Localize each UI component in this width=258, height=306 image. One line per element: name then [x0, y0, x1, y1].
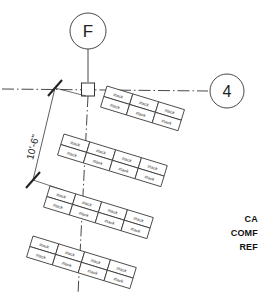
panel-bank-3[interactable]: #tack #tack #tack #tack #tack #tack #tac…: [44, 186, 154, 239]
grid-line-horizontal: [2, 89, 208, 91]
note-block: CA COMF REF: [166, 212, 258, 254]
panel-bank-4[interactable]: #tack #tack #tack #tack #tack #tack #tac…: [27, 236, 137, 289]
grid-bubble-4[interactable]: 4: [210, 74, 244, 108]
grid-bubble-4-label: 4: [223, 83, 232, 100]
dimension-tick-lower: [26, 172, 40, 188]
drawing-canvas: F 4 10'-6": [0, 0, 258, 306]
grid-bubble-f-label: F: [83, 22, 93, 41]
cad-linework: F 4 10'-6": [0, 0, 258, 306]
note-line-2: COMF: [166, 226, 258, 240]
grid-bubble-f[interactable]: F: [70, 13, 106, 49]
column-square-icon: [82, 83, 95, 96]
dimension-line: [33, 88, 55, 180]
note-line-1: CA: [166, 212, 258, 226]
dimension-tick-upper: [48, 80, 62, 96]
panel-bank-2[interactable]: #tack #tack #tack #tack #tack #tack #tac…: [58, 134, 168, 187]
note-line-3: REF: [166, 240, 258, 254]
panel-bank-1[interactable]: #tack #tack #tack #tack #tack #tack: [101, 86, 185, 131]
